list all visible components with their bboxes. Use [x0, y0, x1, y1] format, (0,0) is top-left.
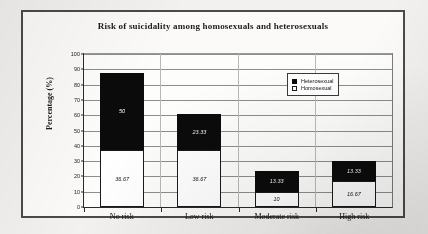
bar-slot: 23.3336.67: [161, 54, 238, 207]
x-axis-category-label: Moderate risk: [238, 212, 316, 221]
stacked-bar[interactable]: 23.3336.67: [177, 114, 221, 207]
bar-group: 5036.6723.3336.6713.331013.3316.67: [84, 54, 392, 207]
x-axis-category-label: High risk: [316, 212, 394, 221]
y-axis-tick-label: 30: [74, 158, 80, 164]
bar-value-label: 13.33: [347, 168, 361, 174]
legend-swatch-heterosexual-icon: [292, 79, 297, 84]
y-axis-tick-label: 50: [74, 128, 80, 134]
bar-value-label: 10: [274, 196, 280, 202]
bar-segment-heterosexual[interactable]: 13.33: [332, 161, 376, 182]
scanned-page: Risk of suicidality among homosexuals an…: [0, 0, 428, 234]
bar-value-label: 36.67: [115, 176, 129, 182]
bar-segment-homosexual[interactable]: 36.67: [100, 150, 144, 207]
legend-item-homosexual: Homosexual: [292, 85, 333, 91]
bar-segment-homosexual[interactable]: 36.67: [177, 150, 221, 207]
stacked-bar[interactable]: 13.3316.67: [332, 161, 376, 207]
y-axis-tick-label: 100: [71, 51, 80, 57]
bar-value-label: 23.33: [192, 129, 206, 135]
stacked-bar[interactable]: 5036.67: [100, 73, 144, 207]
y-axis-tick-label: 70: [74, 97, 80, 103]
y-axis-tick-label: 40: [74, 143, 80, 149]
legend-swatch-homosexual-icon: [292, 86, 297, 91]
bar-value-label: 36.67: [192, 176, 206, 182]
plot-area: 0102030405060708090100 5036.6723.3336.67…: [83, 53, 393, 208]
legend-item-heterosexual: Heterosexual: [292, 78, 333, 84]
bar-segment-homosexual[interactable]: 10: [255, 192, 299, 208]
y-axis-label: Percentage (%): [45, 77, 54, 130]
x-axis-category-label: Low risk: [161, 212, 239, 221]
bar-value-label: 16.67: [347, 191, 361, 197]
bar-segment-heterosexual[interactable]: 13.33: [255, 171, 299, 192]
y-axis-tick-label: 90: [74, 66, 80, 72]
stacked-bar[interactable]: 13.3310: [255, 171, 299, 207]
x-axis-category-label: No risk: [83, 212, 161, 221]
x-axis-labels: No riskLow riskModerate riskHigh risk: [83, 212, 393, 221]
bar-segment-heterosexual[interactable]: 50: [100, 73, 144, 151]
chart-frame: Risk of suicidality among homosexuals an…: [21, 10, 405, 218]
bar-segment-homosexual[interactable]: 16.67: [332, 181, 376, 207]
y-axis-tick-label: 10: [74, 189, 80, 195]
bar-segment-heterosexual[interactable]: 23.33: [177, 114, 221, 150]
bar-value-label: 13.33: [270, 178, 284, 184]
y-axis-tick-label: 20: [74, 173, 80, 179]
y-axis-tick-label: 60: [74, 112, 80, 118]
bar-value-label: 50: [119, 108, 125, 114]
bar-slot: 5036.67: [84, 54, 161, 207]
y-axis-tick-label: 80: [74, 82, 80, 88]
legend-label-heterosexual: Heterosexual: [301, 78, 333, 84]
legend-label-homosexual: Homosexual: [301, 85, 332, 91]
chart-legend: Heterosexual Homosexual: [287, 73, 339, 96]
y-axis-tick-label: 0: [77, 204, 80, 210]
chart-title: Risk of suicidality among homosexuals an…: [23, 21, 403, 31]
